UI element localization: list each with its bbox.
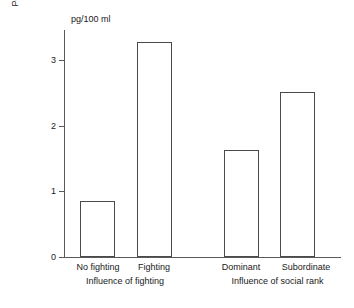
- y-tick-label-0: 0: [16, 253, 56, 262]
- category-label-fighting: Fighting: [123, 262, 185, 273]
- x-axis-line: [64, 257, 341, 258]
- y-tick-label-1: 1: [16, 187, 56, 196]
- group-label-influence-of-fighting: Influence of fighting: [59, 276, 191, 287]
- y-axis-title: Post-session minus pre-session plasma co…: [10, 0, 38, 58]
- y-tick-mark-0: [59, 257, 65, 258]
- group-label-influence-of-social-rank: Influence of social rank: [205, 276, 350, 287]
- y-tick-mark-2: [59, 126, 65, 127]
- y-tick-mark-1: [59, 191, 65, 192]
- bar-subordinate: [280, 92, 315, 257]
- bar-fighting: [137, 42, 172, 257]
- y-tick-mark-3: [59, 60, 65, 61]
- bar-no-fighting: [80, 201, 115, 257]
- y-tick-label-3: 3: [16, 56, 56, 65]
- category-label-subordinate: Subordinate: [262, 262, 350, 273]
- bar-dominant: [224, 150, 259, 257]
- y-tick-label-2: 2: [16, 122, 56, 131]
- y-axis-title-text: Post-session minus pre-session plasma co…: [10, 0, 32, 58]
- y-axis-unit-label: pg/100 ml: [71, 14, 111, 25]
- y-axis-line: [64, 30, 65, 258]
- bar-chart-figure: Post-session minus pre-session plasma co…: [0, 0, 354, 308]
